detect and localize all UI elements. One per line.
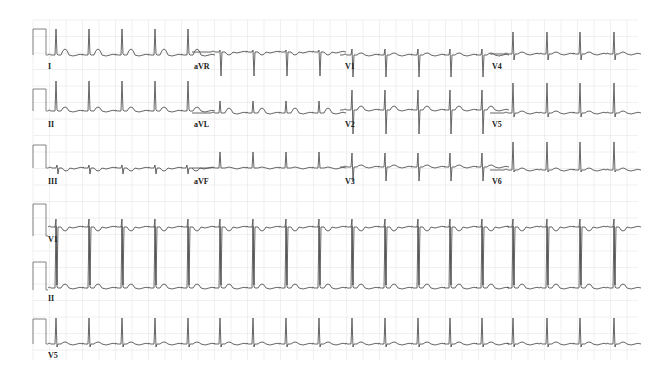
lead-label-ii: II [48,294,54,303]
lead-label-v3: V3 [345,177,355,186]
lead-label-avr: aVR [194,62,210,71]
lead-trace-avr [192,50,346,76]
lead-trace-iii [48,165,214,174]
lead-label-iii: III [48,177,57,186]
lead-trace-v2 [340,90,509,134]
lead-trace-ii [48,226,641,289]
lead-label-ii: II [48,120,54,129]
lead-label-i: I [48,62,51,71]
lead-traces [48,29,641,347]
lead-trace-v3 [340,153,509,181]
lead-trace-avf [192,152,346,169]
lead-label-v1: V1 [48,235,58,244]
lead-label-avf: aVF [194,177,209,186]
lead-label-v6: V6 [492,177,502,186]
lead-trace-v5 [48,318,641,347]
lead-label-v2: V2 [345,120,355,129]
lead-label-v1: V1 [345,62,355,71]
lead-trace-avl [192,101,346,114]
lead-trace-v6 [490,142,641,172]
lead-trace-i [48,29,215,56]
lead-label-avl: aVL [194,120,209,129]
ecg-tracing [0,0,671,383]
ecg-grid [33,20,638,360]
lead-label-v4: V4 [492,62,502,71]
lead-label-v5: V5 [48,351,58,360]
calibration-pulses [33,29,48,344]
lead-trace-v1 [48,219,641,285]
lead-trace-v5 [490,83,641,117]
lead-label-v5: V5 [492,120,502,129]
